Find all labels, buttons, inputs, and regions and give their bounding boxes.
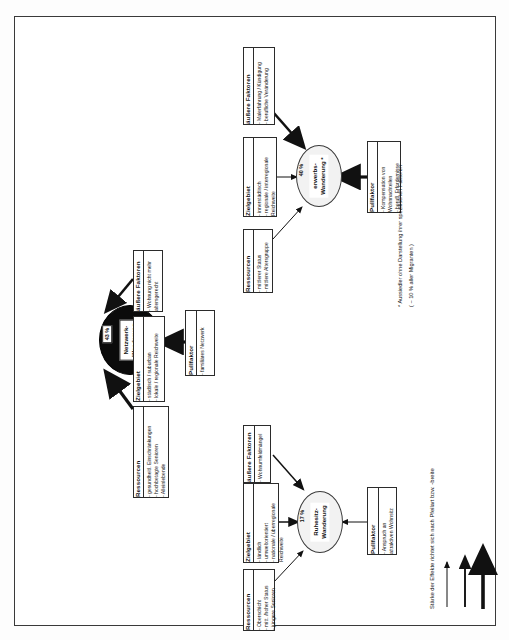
box-netzwerk-ressourcen: Ressourcen - gesundheitl. Einschränkunge… bbox=[133, 406, 169, 498]
box-netzwerk-pullfaktor: Pullfaktor - familiäres Netzwerk bbox=[185, 310, 215, 376]
box-line: - familiäres Netzwerk bbox=[199, 311, 206, 375]
box-title: Zielgebiet bbox=[244, 138, 254, 216]
box-title: äußere Faktoren bbox=[245, 426, 255, 482]
node-ruhesitz-label: Ruhesitz-Wanderung bbox=[310, 502, 329, 541]
box-line: - Kompensation von bbox=[380, 142, 387, 212]
box-line: - innerstädtisch bbox=[256, 138, 263, 216]
box-line: - städtisch / suburban bbox=[146, 317, 153, 401]
footnote-line-2: ( ~ 10 % aller Migranten ) bbox=[407, 244, 417, 307]
box-line: - Anspruch an bbox=[381, 488, 388, 554]
box-line: - Oberschicht bbox=[256, 570, 263, 630]
box-line: - regionale / interregionale bbox=[263, 138, 270, 216]
box-title: Ressourcen bbox=[134, 407, 144, 497]
box-line: - gesundheitl. Einschränkungen bbox=[146, 407, 153, 497]
box-line: - hochbetagte Senioren bbox=[153, 407, 160, 497]
box-line: Wohnnachteilen bbox=[387, 142, 394, 212]
node-ruhesitz-percent: 17 % bbox=[298, 508, 306, 524]
box-title: Zielgebiet bbox=[244, 484, 254, 562]
box-ruhesitz-zielgebiet: Zielgebiet - ländlich - umweltorientiert… bbox=[243, 483, 279, 563]
box-line: - Malerfahrung / Kündigung bbox=[256, 48, 263, 124]
box-line: - ländlich bbox=[256, 484, 263, 562]
node-erwerbs-label: erwerbs-Wanderung * bbox=[309, 154, 328, 197]
box-title: äußere Faktoren bbox=[244, 48, 254, 124]
box-line: - berufliche Veränderung bbox=[263, 48, 270, 124]
screenshot-page: Netzwerk-Wanderung 43 % äußere Faktoren … bbox=[0, 0, 509, 640]
box-erwerbs-zielgebiet: Zielgebiet - innerstädtisch - regionale … bbox=[243, 137, 277, 217]
node-erwerbs-percent: 40 % bbox=[297, 162, 305, 178]
box-line: attraktiven Wohnsitz bbox=[388, 488, 395, 554]
box-line: - Wohnumfeldmängel bbox=[257, 426, 264, 482]
box-line: Reichweite bbox=[278, 484, 285, 562]
box-ruhesitz-pullfaktor: Pullfaktor - Anspruch an attraktiven Woh… bbox=[367, 487, 397, 555]
box-title: Pullfaktor bbox=[368, 142, 378, 212]
box-ruhesitz-ressourcen: Ressourcen - Oberschicht - mitt. /hoher … bbox=[243, 569, 275, 631]
node-ruhesitz-wanderung: Ruhesitz-Wanderung 17 % bbox=[297, 491, 343, 553]
box-title: Ressourcen bbox=[244, 230, 254, 292]
diagram-frame: Netzwerk-Wanderung 43 % äußere Faktoren … bbox=[14, 16, 496, 626]
box-title: Pullfaktor bbox=[187, 311, 197, 375]
box-erwerbs-ressourcen: Ressourcen - mittlerer Status - mittlere… bbox=[243, 229, 273, 293]
box-line: - jüngere Senioren bbox=[270, 570, 277, 630]
legend-caption: Stärke der Effekte richtet sich nach Pfe… bbox=[429, 468, 435, 609]
arrow-netzwerk-ressourcen bbox=[108, 375, 133, 409]
box-netzwerk-aussere-faktoren: äußere Faktoren - Wohnung nicht mehr alt… bbox=[133, 250, 163, 312]
box-erwerbs-aussere-faktoren: äußere Faktoren - Malerfahrung / Kündigu… bbox=[243, 47, 275, 125]
box-netzwerk-zielgebiet: Zielgebiet - städtisch / suburban - loka… bbox=[133, 316, 165, 402]
box-line: - nationale / überregionale bbox=[270, 484, 277, 562]
box-line: - mittlerer Status bbox=[256, 230, 263, 292]
box-line: Reichweite bbox=[270, 138, 277, 216]
box-line: - mitt. /hoher Status bbox=[263, 570, 270, 630]
box-title: Zielgebiet bbox=[134, 317, 144, 401]
box-title: Ressourcen bbox=[244, 570, 254, 630]
footnote-line-1: * Aussiedler ohne Darstellung ihrer spez… bbox=[396, 165, 406, 307]
box-title: Pullfaktor bbox=[369, 488, 379, 554]
box-line: - Alleinlebende bbox=[160, 407, 167, 497]
box-line: - lokale / regionale Reichweite bbox=[153, 317, 160, 401]
box-line: - mittlere Altersgruppe bbox=[263, 230, 270, 292]
node-erwerbs-wanderung: erwerbs-Wanderung * 40 % bbox=[296, 145, 342, 207]
box-line: - Wohnung nicht mehr bbox=[146, 251, 153, 311]
box-title: äußere Faktoren bbox=[134, 251, 144, 311]
node-netzwerk-percent: 43 % bbox=[102, 325, 112, 343]
box-line: altersgerecht bbox=[153, 251, 160, 311]
box-ruhesitz-aussere-faktoren: äußere Faktoren - Wohnumfeldmängel bbox=[243, 425, 271, 483]
box-line: - umweltorientiert bbox=[263, 484, 270, 562]
